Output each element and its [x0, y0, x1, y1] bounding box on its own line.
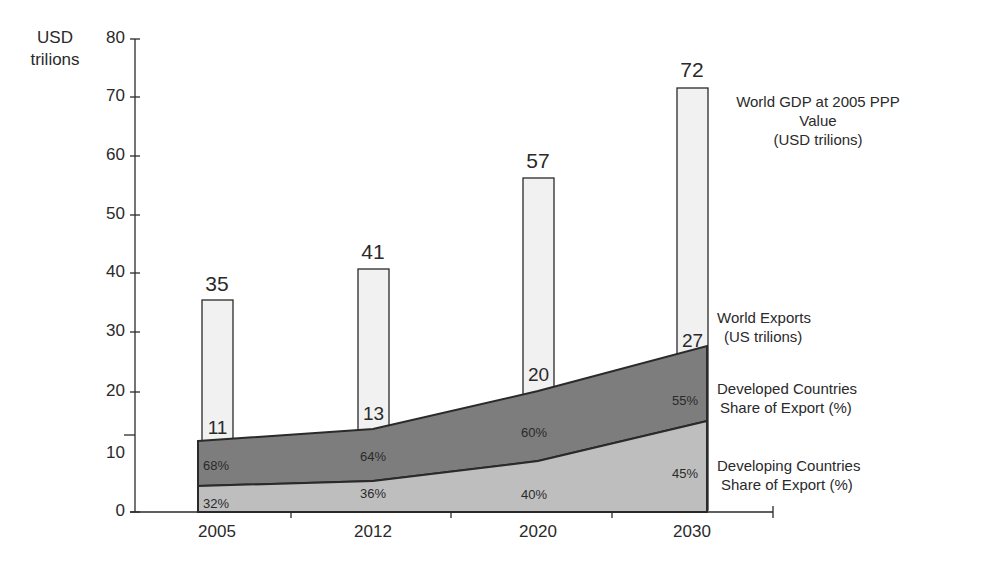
y-axis-title: USD trilions — [20, 27, 90, 71]
developed-share-2030: 55% — [672, 393, 698, 408]
developing-share-2012: 36% — [360, 486, 386, 501]
y-tick-40: 40 — [95, 262, 125, 282]
export-value-2005: 11 — [202, 417, 233, 439]
legend-gdp: World GDP at 2005 PPP Value (USD trilion… — [718, 92, 918, 149]
developed-share-2020: 60% — [521, 425, 547, 440]
developed-share-2012: 64% — [360, 449, 386, 464]
developed-share-2005: 68% — [203, 458, 229, 473]
y-tick-20: 20 — [95, 381, 125, 401]
x-tick-2020: 2020 — [503, 522, 573, 542]
developing-share-2005: 32% — [203, 496, 229, 511]
export-value-2012: 13 — [358, 403, 389, 425]
legend-developed-line2: Share of Export (%) — [717, 398, 857, 417]
x-tick-2030: 2030 — [657, 522, 727, 542]
x-tick-2012: 2012 — [338, 522, 408, 542]
legend-gdp-line1: World GDP at 2005 PPP Value — [718, 92, 918, 130]
legend-developed: Developed Countries Share of Export (%) — [717, 379, 857, 417]
gdp-value-2030: 72 — [667, 58, 717, 82]
legend-developing: Developing Countries Share of Export (%) — [717, 456, 860, 494]
gdp-value-2005: 35 — [192, 272, 242, 296]
gdp-value-2020: 57 — [513, 149, 563, 173]
legend-exports: World Exports (US trilions) — [717, 308, 811, 346]
y-axis — [124, 39, 140, 512]
y-tick-80: 80 — [95, 28, 125, 48]
y-tick-30: 30 — [95, 321, 125, 341]
gdp-value-2012: 41 — [348, 240, 398, 264]
export-value-2030: 27 — [677, 330, 708, 352]
x-tick-2005: 2005 — [182, 522, 252, 542]
developing-share-2020: 40% — [521, 487, 547, 502]
legend-exports-line2: (US trilions) — [717, 327, 811, 346]
y-tick-0: 0 — [95, 501, 125, 521]
y-tick-70: 70 — [95, 86, 125, 106]
y-axis-title-line2: trilions — [20, 49, 90, 71]
y-tick-60: 60 — [95, 145, 125, 165]
developing-share-2030: 45% — [672, 466, 698, 481]
legend-gdp-line2: (USD trilions) — [718, 130, 918, 149]
y-tick-50: 50 — [95, 204, 125, 224]
legend-developed-line1: Developed Countries — [717, 379, 857, 398]
legend-exports-line1: World Exports — [717, 308, 811, 327]
y-axis-title-line1: USD — [20, 27, 90, 49]
export-value-2020: 20 — [523, 364, 554, 386]
y-tick-10: 10 — [95, 443, 125, 463]
legend-developing-line2: Share of Export (%) — [717, 475, 860, 494]
legend-developing-line1: Developing Countries — [717, 456, 860, 475]
